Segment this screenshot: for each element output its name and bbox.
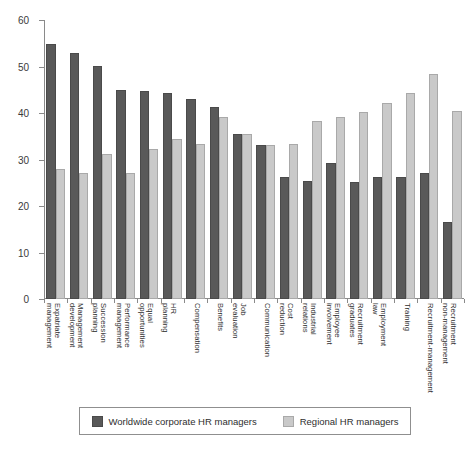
x-axis-label: Recruitment non-management [441, 303, 458, 399]
axes: 0102030405060 [44, 20, 464, 299]
bar [93, 66, 102, 299]
bar [233, 134, 242, 299]
bar [312, 121, 321, 299]
x-axis-labels: Expatriate managementManagement developm… [44, 303, 464, 401]
bar [359, 112, 368, 299]
bar [289, 144, 298, 299]
bar [420, 173, 429, 299]
bar [149, 149, 158, 299]
x-axis-label: HR planning [161, 303, 178, 399]
plot-area: 0102030405060 Expatriate managementManag… [0, 0, 475, 400]
bar [186, 99, 195, 299]
bar [443, 222, 452, 299]
bar [210, 107, 219, 299]
legend-swatch-icon [283, 416, 294, 427]
bar [406, 93, 415, 299]
bar [266, 145, 275, 299]
bar [219, 117, 228, 299]
bar [56, 169, 65, 299]
bar [429, 74, 438, 299]
legend-swatch-icon [92, 416, 103, 427]
bar [46, 44, 55, 299]
x-axis-label: Employee involvement [324, 303, 341, 399]
bar [126, 173, 135, 299]
y-axis-tick-label: 40 [3, 109, 29, 119]
bar [102, 154, 111, 299]
x-axis-label: Compensation [192, 303, 200, 399]
x-axis-label: Employment law [371, 303, 388, 399]
y-axis-tick-label: 60 [3, 16, 29, 26]
x-axis-label: Cost reduction [277, 303, 294, 399]
bar [256, 145, 265, 299]
bar [242, 134, 251, 299]
bar [452, 111, 461, 299]
bar [196, 144, 205, 299]
x-axis-label: Expatriate management [44, 303, 61, 399]
x-axis-label: Recruitment graduates [347, 303, 364, 399]
y-axis-tick-label: 50 [3, 63, 29, 73]
x-axis-label: Job evaluation [231, 303, 248, 399]
y-axis-tick-label: 10 [3, 249, 29, 259]
y-axis-tick-label: 20 [3, 202, 29, 212]
bar [280, 177, 289, 299]
x-axis-label: Training [402, 303, 410, 399]
x-axis-label: Management development [67, 303, 84, 399]
bar [303, 181, 312, 299]
bar-chart: 0102030405060 Expatriate managementManag… [0, 0, 475, 452]
bar [140, 91, 149, 299]
x-axis-label: Communication [262, 303, 270, 399]
legend: Worldwide corporate HR managers Regional… [79, 407, 411, 435]
x-axis-tick [464, 299, 465, 303]
x-axis-label: Recruitment-management [426, 303, 434, 399]
y-axis-tick-label: 30 [3, 156, 29, 166]
bar [172, 139, 181, 299]
bar [336, 117, 345, 299]
legend-item: Regional HR managers [283, 416, 399, 427]
bar [382, 103, 391, 299]
bar [326, 163, 335, 299]
x-axis-label: Industrial relations [301, 303, 318, 399]
bar [163, 93, 172, 299]
y-axis-tick-label: 0 [3, 295, 29, 305]
bar [116, 90, 125, 299]
x-axis-label: Performance management [114, 303, 131, 399]
x-axis-label: Succession planning [91, 303, 108, 399]
x-axis-label: Benefits [216, 303, 224, 399]
legend-item-label: Worldwide corporate HR managers [109, 416, 257, 427]
legend-item-label: Regional HR managers [300, 416, 399, 427]
bar [373, 177, 382, 299]
bar [70, 53, 79, 299]
bars-layer [44, 20, 464, 299]
bar [79, 173, 88, 299]
bar [396, 177, 405, 299]
bar [350, 182, 359, 299]
x-axis-label: Equal opportunities [137, 303, 154, 399]
legend-item: Worldwide corporate HR managers [92, 416, 257, 427]
